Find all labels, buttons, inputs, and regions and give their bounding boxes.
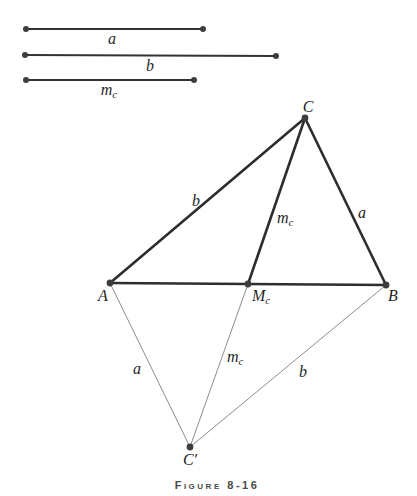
segment-b-line — [25, 55, 276, 56]
vertex-Cprime-label: C′ — [183, 451, 198, 468]
side-label-CB-a: a — [358, 204, 366, 221]
given-segment-b: b — [22, 52, 279, 74]
side-label-median-mc: mc — [277, 209, 294, 228]
segment-mc-label: mc — [101, 81, 118, 100]
segment-a-label: a — [108, 30, 116, 47]
given-segment-a: a — [23, 26, 206, 47]
side-label-ACprime-a: a — [133, 360, 141, 377]
edge-CB — [305, 118, 386, 285]
vertex-A-dot — [107, 280, 114, 287]
side-label-AC-b: b — [192, 192, 200, 209]
segment-mc-left-endpoint-dot — [23, 77, 29, 83]
segment-b-right-endpoint-dot — [273, 53, 279, 59]
vertex-C-label: C — [303, 98, 314, 115]
vertex-B-label: B — [388, 287, 398, 304]
segment-mc-right-endpoint-dot — [191, 77, 197, 83]
vertex-Mc-dot — [245, 281, 252, 288]
segment-a-left-endpoint-dot — [23, 26, 29, 32]
figure-page: a b mc C A Mc — [0, 0, 417, 496]
figure-caption: Figure 8-16 — [117, 479, 317, 491]
given-segment-mc: mc — [23, 77, 197, 100]
line-A-Cprime — [110, 283, 190, 447]
vertex-Mc-label: Mc — [251, 287, 270, 306]
side-label-BCprime-b: b — [299, 363, 307, 380]
segment-b-left-endpoint-dot — [22, 52, 28, 58]
line-B-Cprime — [190, 285, 386, 447]
segment-b-label: b — [146, 57, 154, 74]
side-label-McCprime-mc: mc — [227, 348, 244, 367]
vertex-C-dot — [302, 115, 309, 122]
vertex-Cprime-dot — [187, 444, 194, 451]
segment-a-right-endpoint-dot — [200, 26, 206, 32]
construction-diagram: a b mc C A Mc — [0, 0, 417, 496]
vertex-A-label: A — [97, 287, 108, 304]
